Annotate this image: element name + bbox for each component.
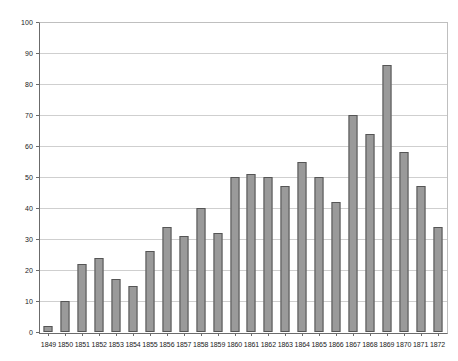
x-axis-tick-label: 1850 — [57, 341, 74, 349]
y-axis-tick-mark — [36, 301, 39, 302]
bar-slot — [226, 22, 243, 332]
bar-slot — [158, 22, 175, 332]
y-axis-tick-label: 80 — [0, 81, 33, 88]
y-axis-tick-label: 50 — [0, 174, 33, 181]
bar-slot — [361, 22, 378, 332]
x-axis-tick-mark — [438, 333, 439, 336]
x-axis-tick-label: 1868 — [361, 341, 378, 349]
bar[interactable] — [247, 174, 256, 332]
y-axis-tick-label: 100 — [0, 19, 33, 26]
x-axis-tick-label: 1853 — [108, 341, 125, 349]
y-axis-tick-mark — [36, 115, 39, 116]
bar[interactable] — [315, 177, 324, 332]
y-axis-tick-mark — [36, 332, 39, 333]
x-axis-tick-label: 1869 — [378, 341, 395, 349]
x-axis-tick-label: 1861 — [243, 341, 260, 349]
x-axis-tick-label: 1871 — [412, 341, 429, 349]
x-axis-tick-label: 1870 — [395, 341, 412, 349]
x-axis-tick-mark — [150, 333, 151, 336]
y-axis-tick-mark — [36, 22, 39, 23]
bar[interactable] — [382, 65, 391, 332]
bar[interactable] — [129, 286, 138, 333]
x-axis-tick-mark — [302, 333, 303, 336]
bar-slot — [243, 22, 260, 332]
bar-slot — [57, 22, 74, 332]
y-axis-tick-mark — [36, 84, 39, 85]
bar[interactable] — [61, 301, 70, 332]
y-axis-tick-label: 60 — [0, 143, 33, 150]
bar[interactable] — [399, 152, 408, 332]
bar[interactable] — [433, 227, 442, 332]
bar[interactable] — [145, 251, 154, 332]
bar-slot — [378, 22, 395, 332]
bar[interactable] — [416, 186, 425, 332]
bar[interactable] — [348, 115, 357, 332]
bar-slot — [328, 22, 345, 332]
y-axis-tick-label: 0 — [0, 329, 33, 336]
bar-slot — [311, 22, 328, 332]
x-axis-tick-label: 1856 — [158, 341, 175, 349]
bar-slot — [209, 22, 226, 332]
y-axis-tick-label: 40 — [0, 205, 33, 212]
bar[interactable] — [332, 202, 341, 332]
x-axis-tick-label: 1855 — [142, 341, 159, 349]
x-axis-tick-mark — [404, 333, 405, 336]
x-axis-tick-label: 1863 — [277, 341, 294, 349]
bar-slot — [91, 22, 108, 332]
x-axis-tick-label: 1872 — [429, 341, 446, 349]
x-axis-tick-label: 1862 — [260, 341, 277, 349]
bar[interactable] — [264, 177, 273, 332]
x-axis-tick-label: 1864 — [294, 341, 311, 349]
bar[interactable] — [230, 177, 239, 332]
x-axis-tick-label: 1851 — [74, 341, 91, 349]
x-axis-tick-label: 1865 — [311, 341, 328, 349]
x-axis-tick-mark — [184, 333, 185, 336]
x-axis-tick-mark — [319, 333, 320, 336]
x-axis-tick-mark — [218, 333, 219, 336]
bar[interactable] — [213, 233, 222, 332]
y-axis-tick-label: 20 — [0, 267, 33, 274]
bar-chart: 0102030405060708090100 18491850185118521… — [0, 0, 458, 361]
bar-slot — [429, 22, 446, 332]
x-axis-tick-mark — [82, 333, 83, 336]
bar[interactable] — [112, 279, 121, 332]
bar[interactable] — [95, 258, 104, 332]
bar-slot — [345, 22, 362, 332]
bars-layer — [40, 22, 446, 332]
bar[interactable] — [365, 134, 374, 332]
bar[interactable] — [179, 236, 188, 332]
bar-slot — [142, 22, 159, 332]
bar-slot — [192, 22, 209, 332]
y-axis-tick-label: 30 — [0, 236, 33, 243]
x-axis-tick-mark — [235, 333, 236, 336]
x-axis-tick-mark — [65, 333, 66, 336]
y-axis-tick-label: 90 — [0, 50, 33, 57]
bar[interactable] — [162, 227, 171, 332]
x-axis-tick-mark — [201, 333, 202, 336]
bar[interactable] — [44, 326, 53, 332]
bar-slot — [74, 22, 91, 332]
bar[interactable] — [78, 264, 87, 332]
bar-slot — [175, 22, 192, 332]
x-axis-tick-label: 1867 — [345, 341, 362, 349]
bar[interactable] — [196, 208, 205, 332]
x-axis-tick-mark — [370, 333, 371, 336]
x-axis-tick-mark — [99, 333, 100, 336]
x-axis-tick-label: 1858 — [192, 341, 209, 349]
x-axis-tick-mark — [167, 333, 168, 336]
x-axis-tick-mark — [285, 333, 286, 336]
bar[interactable] — [281, 186, 290, 332]
y-axis-tick-mark — [36, 146, 39, 147]
x-axis-tick-label: 1857 — [175, 341, 192, 349]
bar-slot — [294, 22, 311, 332]
x-axis-tick-label: 1852 — [91, 341, 108, 349]
bar[interactable] — [298, 162, 307, 333]
x-axis-tick-mark — [116, 333, 117, 336]
x-axis-tick-label: 1866 — [328, 341, 345, 349]
bar-slot — [260, 22, 277, 332]
x-axis-tick-mark — [48, 333, 49, 336]
bar-slot — [277, 22, 294, 332]
y-axis-tick-label: 70 — [0, 112, 33, 119]
x-axis-tick-mark — [353, 333, 354, 336]
bar-slot — [108, 22, 125, 332]
